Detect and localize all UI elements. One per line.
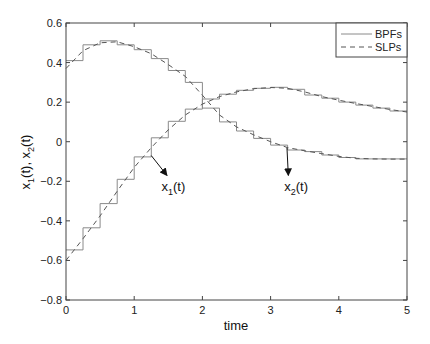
legend-label: SLPs bbox=[375, 41, 402, 53]
y-tick-label: 0.4 bbox=[47, 57, 62, 69]
x-tick-label: 3 bbox=[268, 304, 274, 316]
legend-label: BPFs bbox=[375, 28, 402, 40]
x-tick-label: 0 bbox=[63, 304, 69, 316]
x-axis-title: time bbox=[224, 318, 249, 333]
plot-background bbox=[66, 23, 407, 300]
x-tick-label: 4 bbox=[336, 304, 342, 316]
x-tick-label: 1 bbox=[131, 304, 137, 316]
y-tick-label: 0 bbox=[56, 136, 62, 148]
y-tick-label: −0.2 bbox=[40, 175, 62, 187]
chart: x1(t)x2(t) 012345−0.8−0.6−0.4−0.200.20.4… bbox=[0, 0, 430, 344]
y-tick-label: −0.8 bbox=[40, 294, 62, 306]
y-tick-label: 0.6 bbox=[47, 17, 62, 29]
x-tick-label: 2 bbox=[199, 304, 205, 316]
y-tick-label: −0.6 bbox=[40, 254, 62, 266]
y-tick-label: −0.4 bbox=[40, 215, 62, 227]
legend: BPFsSLPs bbox=[336, 23, 407, 57]
y-axis-title: x1(t), x2(t) bbox=[18, 135, 36, 190]
y-tick-label: 0.2 bbox=[47, 96, 62, 108]
plot-area bbox=[66, 23, 407, 300]
x-tick-label: 5 bbox=[404, 304, 410, 316]
